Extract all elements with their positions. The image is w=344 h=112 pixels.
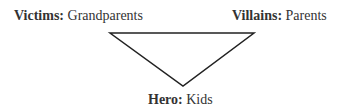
hero-role: Hero: bbox=[148, 92, 183, 107]
hero-label: Hero: Kids bbox=[148, 92, 213, 108]
hero-value: Kids bbox=[186, 92, 212, 107]
drama-triangle-shape bbox=[110, 33, 254, 86]
